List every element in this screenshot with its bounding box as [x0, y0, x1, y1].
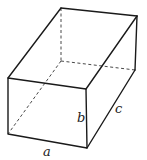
- hidden-edge-left-bottom-depth: [8, 61, 61, 134]
- hidden-edge-back-bottom: [61, 61, 135, 70]
- edge-back-right-vertical: [135, 16, 137, 70]
- label-b: b: [77, 110, 85, 125]
- edge-bottom-right-depth: [87, 70, 135, 148]
- edge-top-back: [61, 8, 137, 16]
- box-diagram: a b c: [0, 0, 147, 160]
- label-a: a: [43, 144, 51, 159]
- front-face: [8, 78, 87, 148]
- edge-top-left-depth: [8, 8, 61, 78]
- label-c: c: [115, 101, 123, 116]
- visible-edges: [8, 8, 137, 148]
